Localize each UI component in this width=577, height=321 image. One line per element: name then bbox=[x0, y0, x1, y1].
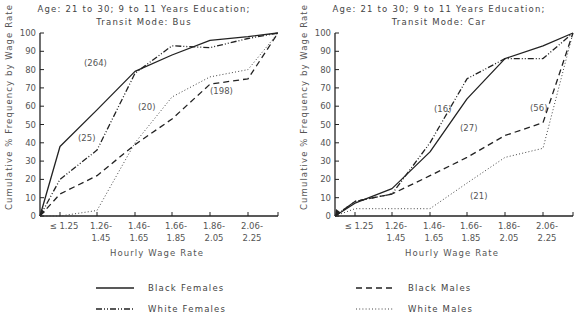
bus-chart-x-tick-label: 1.45 bbox=[92, 233, 111, 243]
dashdot-line-swatch-icon bbox=[96, 307, 134, 311]
bus-chart-y-tick-label: 90 bbox=[25, 46, 36, 56]
bus-chart-sample-size-annotation: (264) bbox=[84, 58, 107, 68]
bus-chart-x-tick-label: 1.66- bbox=[165, 221, 187, 231]
car-chart-y-tick-label: 70 bbox=[320, 83, 331, 93]
car-chart-x-tick-label: 2.05 bbox=[500, 233, 519, 243]
bus-chart-plot: 0102030405060708090100≤ 1.251.26-1.451.4… bbox=[0, 0, 288, 268]
bus-chart-series-black-females bbox=[40, 33, 278, 216]
bus-chart-origin-arrow-icon bbox=[40, 209, 45, 216]
car-chart-x-tick-label: 1.26- bbox=[385, 221, 407, 231]
car-chart-y-tick-label: 40 bbox=[320, 138, 331, 148]
bus-chart-y-tick-label: 100 bbox=[20, 28, 36, 38]
car-chart-y-tick-label: 0 bbox=[326, 211, 331, 221]
car-chart-sample-size-annotation: (16) bbox=[434, 104, 451, 114]
car-chart-x-tick-label: 1.65 bbox=[425, 233, 444, 243]
legend-label: Black Females bbox=[148, 283, 224, 293]
bus-chart-x-tick-label: 2.05 bbox=[205, 233, 224, 243]
car-chart-y-tick-label: 90 bbox=[320, 46, 331, 56]
bus-chart-panel: Age: 21 to 30; 9 to 11 Years Education; … bbox=[0, 0, 288, 268]
bus-chart-y-tick-label: 40 bbox=[25, 138, 36, 148]
car-chart-y-tick-label: 10 bbox=[320, 193, 331, 203]
bus-chart-sample-size-annotation: (25) bbox=[78, 133, 95, 143]
bus-chart-x-tick-label: 2.25 bbox=[243, 233, 262, 243]
car-chart-series-black-males bbox=[335, 33, 573, 216]
bus-chart-y-tick-label: 0 bbox=[31, 211, 36, 221]
dotted-line-swatch-icon bbox=[356, 307, 394, 311]
bus-chart-y-tick-label: 70 bbox=[25, 83, 36, 93]
car-chart-y-tick-label: 80 bbox=[320, 65, 331, 75]
bus-chart-y-tick-label: 50 bbox=[25, 120, 36, 130]
bus-chart-x-tick-label: ≤ 1.25 bbox=[50, 221, 79, 231]
car-chart-sample-size-annotation: (27) bbox=[460, 123, 477, 133]
car-chart-x-tick-label: 2.06- bbox=[536, 221, 558, 231]
bus-chart-x-tick-label: 2.06- bbox=[241, 221, 263, 231]
car-chart-panel: Age: 21 to 30; 9 to 11 Years Education; … bbox=[295, 0, 577, 268]
bus-chart-y-tick-label: 80 bbox=[25, 65, 36, 75]
bus-chart-x-tick-label: 1.26- bbox=[90, 221, 112, 231]
car-chart-x-tick-label: 1.85 bbox=[462, 233, 481, 243]
car-chart-y-tick-label: 30 bbox=[320, 156, 331, 166]
bus-chart-y-tick-label: 30 bbox=[25, 156, 36, 166]
legend-label: White Males bbox=[408, 304, 473, 314]
car-chart-y-tick-label: 60 bbox=[320, 101, 331, 111]
legend-item-white-males: White Males bbox=[356, 302, 473, 316]
car-chart-x-tick-label: 1.45 bbox=[387, 233, 406, 243]
bus-chart-x-tick-label: 1.86- bbox=[203, 221, 225, 231]
car-chart-x-tick-label: 2.25 bbox=[538, 233, 557, 243]
car-chart-x-tick-label: 1.46- bbox=[423, 221, 445, 231]
bus-chart-x-tick-label: 1.46- bbox=[128, 221, 150, 231]
legend-item-white-females: White Females bbox=[96, 302, 226, 316]
bus-chart-y-tick-label: 60 bbox=[25, 101, 36, 111]
legend-item-black-males: Black Males bbox=[356, 281, 471, 295]
bus-chart-sample-size-annotation: (20) bbox=[138, 102, 155, 112]
legend-label: White Females bbox=[148, 304, 226, 314]
car-chart-sample-size-annotation: (56) bbox=[530, 103, 547, 113]
solid-line-swatch-icon bbox=[96, 286, 134, 290]
bus-chart-x-tick-label: 1.85 bbox=[167, 233, 186, 243]
legend-item-black-females: Black Females bbox=[96, 281, 224, 295]
car-chart-y-tick-label: 100 bbox=[315, 28, 331, 38]
car-chart-y-tick-label: 50 bbox=[320, 120, 331, 130]
bus-chart-y-tick-label: 10 bbox=[25, 193, 36, 203]
car-chart-sample-size-annotation: (21) bbox=[470, 191, 487, 201]
car-chart-x-tick-label: ≤ 1.25 bbox=[345, 221, 374, 231]
legend-label: Black Males bbox=[408, 283, 471, 293]
bus-chart-sample-size-annotation: (198) bbox=[210, 86, 233, 96]
car-chart-x-tick-label: 1.66- bbox=[460, 221, 482, 231]
bus-chart-y-tick-label: 20 bbox=[25, 174, 36, 184]
car-chart-plot: 0102030405060708090100≤ 1.251.26-1.451.4… bbox=[295, 0, 577, 268]
car-chart-x-tick-label: 1.86- bbox=[498, 221, 520, 231]
dashed-line-swatch-icon bbox=[356, 286, 394, 290]
car-chart-y-tick-label: 20 bbox=[320, 174, 331, 184]
bus-chart-x-tick-label: 1.65 bbox=[130, 233, 149, 243]
chart-legend: Black Females White Females Black Males … bbox=[0, 278, 577, 321]
